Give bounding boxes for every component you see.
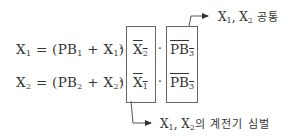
- relay-sep: , X: [174, 117, 190, 131]
- common-arrow: [189, 16, 208, 26]
- common-kr: 공통: [253, 11, 280, 24]
- relay-x1: X: [160, 117, 169, 131]
- common-sep: , X: [232, 10, 248, 24]
- relay-arrow: [131, 101, 151, 123]
- common-label: X1, X2 공통: [218, 8, 279, 25]
- common-x1: X: [218, 10, 227, 24]
- relay-symbol-label: X1, X2의 계전기 심벌: [160, 115, 270, 132]
- relay-kr: 의 계전기 심벌: [195, 118, 270, 131]
